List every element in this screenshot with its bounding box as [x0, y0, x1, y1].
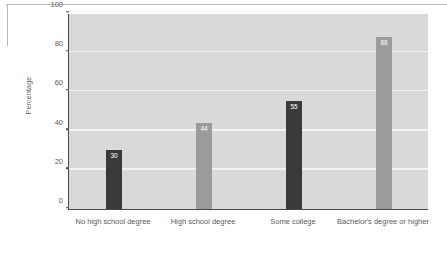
bar-value-label: 55 [286, 103, 302, 111]
bar-series: 30445588 [69, 14, 428, 209]
y-tick-label: 20 [55, 156, 63, 165]
y-tick-label: 80 [55, 39, 63, 48]
page-top-rule [6, 4, 447, 5]
bar-value-label: 88 [376, 39, 392, 47]
y-tick-label: 60 [55, 78, 63, 87]
gridline [69, 12, 428, 14]
y-tick-label: 40 [55, 117, 63, 126]
bar: 44 [196, 123, 212, 209]
bar-value-label: 44 [196, 125, 212, 133]
y-tick-label: 0 [59, 196, 63, 205]
x-axis-label: High school degree [157, 216, 249, 227]
bar: 88 [376, 37, 392, 209]
y-tick-label: 100 [50, 0, 63, 9]
y-axis-title: Percentage [25, 56, 32, 136]
page-left-rule [7, 4, 8, 46]
x-axis-label: No high school degree [67, 216, 159, 227]
bar-chart-figure: Percentage 020406080100 30445588 No high… [0, 0, 447, 262]
bar: 30 [106, 150, 122, 209]
y-tick-mark [66, 11, 69, 13]
bar-value-label: 30 [106, 152, 122, 160]
plot-area: 020406080100 30445588 [68, 14, 428, 210]
x-axis-label: Bachelor's degree or higher [337, 216, 429, 227]
bar: 55 [286, 101, 302, 209]
x-axis-label: Some college [247, 216, 339, 227]
